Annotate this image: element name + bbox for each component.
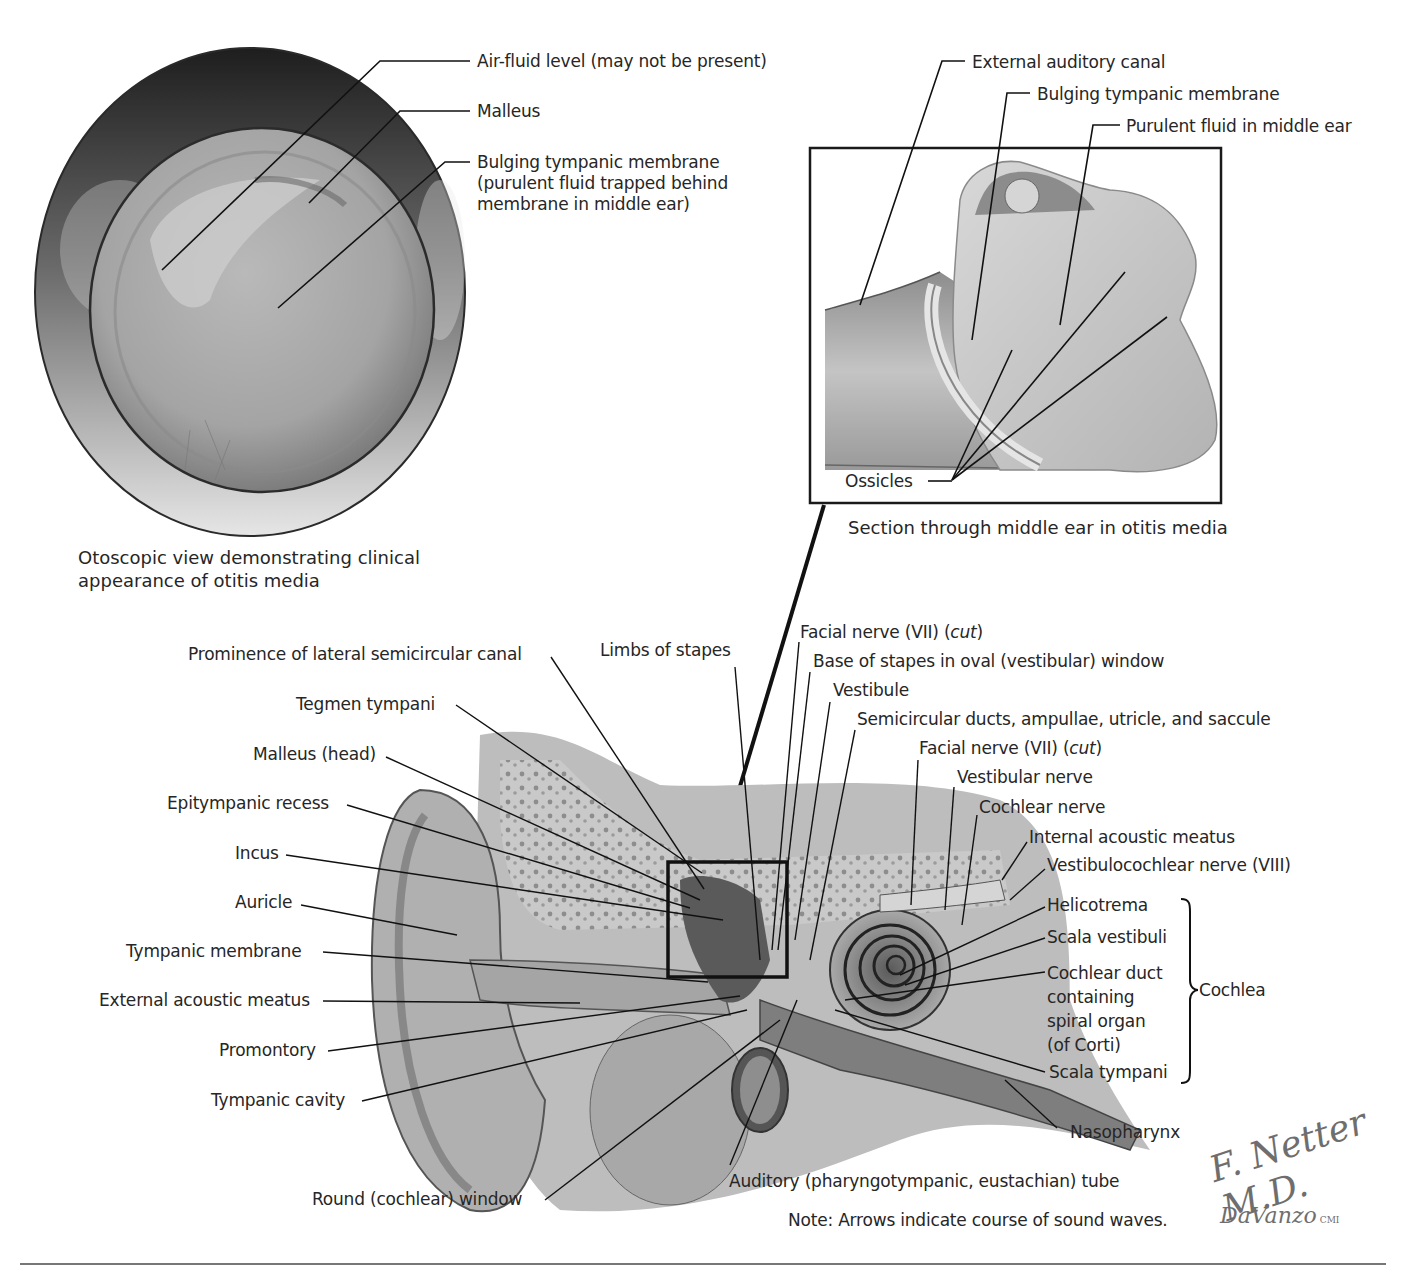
label-scala-vestibuli: Scala vestibuli	[1047, 927, 1167, 948]
label-ossicles: Ossicles	[845, 471, 913, 492]
cochlea-brace	[1181, 899, 1198, 1083]
label-nasopharynx: Nasopharynx	[1070, 1122, 1180, 1143]
label-external-auditory-canal: External auditory canal	[972, 52, 1165, 73]
note-sound-waves: Note: Arrows indicate course of sound wa…	[788, 1210, 1168, 1231]
label-facial-nerve-cut-2: Facial nerve (VII) (cut)	[919, 738, 1102, 759]
label-scala-tympani: Scala tympani	[1049, 1062, 1168, 1083]
label-air-fluid-level: Air-fluid level (may not be present)	[477, 51, 767, 72]
label-facial-nerve-cut-1: Facial nerve (VII) (cut)	[800, 622, 983, 643]
label-semicircular-ducts: Semicircular ducts, ampullae, utricle, a…	[857, 709, 1271, 730]
label-epitympanic-recess: Epitympanic recess	[167, 793, 329, 814]
label-cut-note: cut	[1069, 738, 1095, 758]
signature-davanzo-name: DaVanzo	[1220, 1203, 1317, 1228]
label-vestibular-nerve: Vestibular nerve	[957, 767, 1093, 788]
signature-davanzo-suffix: CMI	[1320, 1215, 1340, 1225]
signature-davanzo: DaVanzoCMI	[1220, 1203, 1339, 1228]
label-cochlea-group: Cochlea	[1199, 980, 1266, 1001]
label-tympanic-membrane: Tympanic membrane	[126, 941, 301, 962]
label-promontory: Promontory	[219, 1040, 316, 1061]
label-internal-acoustic-meatus: Internal acoustic meatus	[1029, 827, 1235, 848]
label-base-of-stapes: Base of stapes in oval (vestibular) wind…	[813, 651, 1164, 672]
label-external-acoustic-meatus: External acoustic meatus	[99, 990, 310, 1011]
label-purulent-fluid: Purulent fluid in middle ear	[1126, 116, 1352, 137]
label-cochlear-duct: Cochlear duct containing spiral organ (o…	[1047, 961, 1172, 1057]
label-prominence-lateral-semicircular-canal: Prominence of lateral semicircular canal	[188, 644, 522, 665]
label-vestibule: Vestibule	[833, 680, 909, 701]
label-helicotrema: Helicotrema	[1047, 895, 1148, 916]
label-vestibulocochlear-nerve: Vestibulocochlear nerve (VIII)	[1047, 855, 1291, 876]
label-malleus: Malleus	[477, 101, 540, 122]
label-bulging-tympanic-membrane-otoscopic: Bulging tympanic membrane (purulent flui…	[477, 152, 767, 215]
label-auditory-tube: Auditory (pharyngotympanic, eustachian) …	[729, 1171, 1119, 1192]
label-round-window: Round (cochlear) window	[312, 1189, 522, 1210]
label-incus: Incus	[235, 843, 279, 864]
label-malleus-head: Malleus (head)	[253, 744, 376, 765]
label-bulging-tympanic-membrane-section: Bulging tympanic membrane	[1037, 84, 1279, 105]
label-tegmen-tympani: Tegmen tympani	[296, 694, 435, 715]
label-tympanic-cavity: Tympanic cavity	[211, 1090, 345, 1111]
label-auricle: Auricle	[235, 892, 292, 913]
label-facial-nerve-text: Facial nerve (VII)	[919, 738, 1058, 758]
caption-middle-ear-section: Section through middle ear in otitis med…	[848, 516, 1228, 539]
caption-otoscopic-view: Otoscopic view demonstrating clinical ap…	[78, 546, 438, 592]
middle-ear-section-illustration	[810, 148, 1221, 503]
otoscopic-view-illustration	[35, 48, 465, 536]
bottom-divider	[20, 1263, 1386, 1265]
label-cut-note: cut	[950, 622, 976, 642]
label-limbs-of-stapes: Limbs of stapes	[600, 640, 731, 661]
label-cochlear-nerve: Cochlear nerve	[979, 797, 1105, 818]
label-facial-nerve-text: Facial nerve (VII)	[800, 622, 939, 642]
